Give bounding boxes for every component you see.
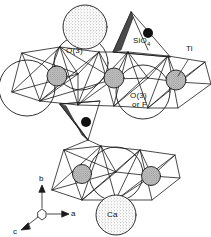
ti-sphere-4 — [73, 165, 92, 184]
tetra-octa-link — [88, 140, 101, 146]
sio4-shaded-face-upper — [113, 12, 133, 52]
ti-sphere-3 — [166, 70, 186, 90]
label-sio4: SiO4 — [133, 36, 150, 49]
axis-triad — [21, 185, 69, 230]
structure-drawing — [0, 0, 211, 237]
crystal-structure-figure: O(3) SiO4 Ti O(3) or F Ca b a c — [0, 0, 211, 237]
ca-sphere-top — [63, 5, 107, 49]
axis-c-arrow — [21, 223, 30, 230]
ti-sphere-5 — [142, 167, 161, 186]
axis-label-b: b — [39, 174, 43, 183]
label-o3-or-f-line2: or F — [132, 101, 147, 110]
label-sio4-text: SiO — [133, 36, 147, 45]
axis-a-arrow — [62, 211, 69, 217]
polyhedra-network — [0, 5, 211, 235]
label-ca: Ca — [107, 210, 118, 219]
label-o3-upper: O(3) — [66, 46, 83, 55]
ti-sphere-2 — [104, 68, 124, 88]
si-atom-dot-lower — [81, 117, 91, 127]
axis-origin-marker — [38, 209, 46, 220]
lower-octahedral-group — [52, 146, 180, 200]
label-ti: Ti — [186, 44, 193, 53]
axis-b-arrow — [39, 185, 45, 192]
axis-label-c: c — [13, 227, 17, 236]
ti-sphere-1 — [47, 66, 67, 86]
axis-label-a: a — [71, 209, 75, 218]
label-sio4-subscript: 4 — [147, 41, 151, 47]
